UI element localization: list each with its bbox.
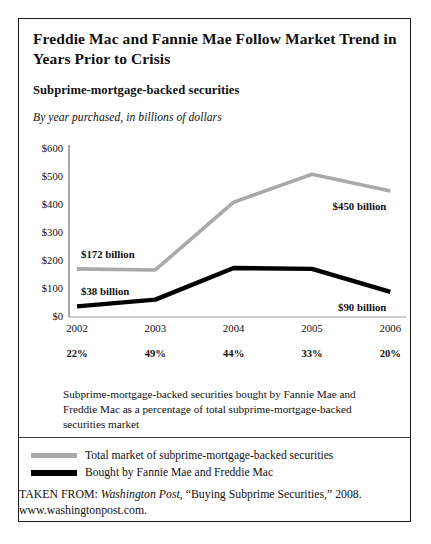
legend-item-gses: Bought by Fannie Mae and Freddie Mac <box>31 464 391 481</box>
value-annotation: $90 billion <box>338 302 386 313</box>
y-tick-label: $0 <box>19 312 63 323</box>
legend-label-total-market: Total market of subprime-mortgage-backed… <box>85 450 333 462</box>
percentage-value: 33% <box>301 349 322 360</box>
legend-swatch-gray-icon <box>31 453 77 458</box>
chart-caption: By year purchased, in billions of dollar… <box>33 111 398 124</box>
value-annotation: $172 billion <box>81 249 135 260</box>
y-tick-label: $200 <box>19 256 63 267</box>
source-prefix: TAKEN FROM: <box>19 487 101 501</box>
x-tick-label: 2006 <box>380 323 402 334</box>
chart-footnote: Subprime-mortgage-backed securities boug… <box>63 387 383 432</box>
legend-swatch-black-icon <box>31 470 77 476</box>
percentage-value: 20% <box>380 349 401 360</box>
legend-item-total-market: Total market of subprime-mortgage-backed… <box>31 447 391 464</box>
chart-subtitle: Subprime-mortgage-backed securities <box>33 83 398 98</box>
percentage-value: 49% <box>145 349 166 360</box>
chart-area: $0$100$200$300$400$500$600 $172 billion$… <box>19 141 412 341</box>
x-tick-label: 2003 <box>145 323 167 334</box>
percentage-value: 22% <box>66 349 87 360</box>
y-tick-label: $400 <box>19 200 63 211</box>
source-rest: , “Buying Subprime Securities,” 2008. <box>180 487 362 501</box>
percentage-value: 44% <box>223 349 244 360</box>
y-tick-label: $100 <box>19 284 63 295</box>
y-tick-label: $300 <box>19 228 63 239</box>
x-axis-tick-labels: 20022003200420052006 <box>19 323 412 337</box>
source-publication: Washington Post <box>101 487 180 501</box>
chart-legend: Total market of subprime-mortgage-backed… <box>31 447 391 481</box>
value-annotation: $38 billion <box>81 286 129 297</box>
page-title: Freddie Mac and Fannie Mae Follow Market… <box>33 29 398 68</box>
y-tick-label: $600 <box>19 144 63 155</box>
x-tick-label: 2002 <box>66 323 88 334</box>
figure-frame: Freddie Mac and Fannie Mae Follow Market… <box>18 18 411 522</box>
legend-label-gses: Bought by Fannie Mae and Freddie Mac <box>85 467 273 479</box>
percentage-row: 22%49%44%33%20% <box>19 349 412 363</box>
x-tick-label: 2004 <box>223 323 245 334</box>
figure-header: Freddie Mac and Fannie Mae Follow Market… <box>33 29 398 124</box>
x-tick-label: 2005 <box>301 323 323 334</box>
source-url: www.washingtonpost.com. <box>19 503 147 517</box>
value-annotation: $450 billion <box>333 201 387 212</box>
y-tick-label: $500 <box>19 172 63 183</box>
legend-divider <box>19 437 410 438</box>
source-attribution: TAKEN FROM: Washington Post, “Buying Sub… <box>19 487 404 519</box>
